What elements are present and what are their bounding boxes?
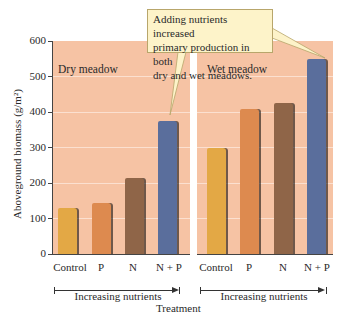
callout-line: primary production in both [153, 40, 267, 68]
arrow-end-tick [179, 287, 180, 294]
increasing-nutrients-wet: Increasing nutrients [204, 290, 324, 302]
callout-line: dry and wet meadows. [153, 68, 267, 82]
arrow-end-tick [326, 287, 327, 294]
x-axis-title: Treatment [156, 302, 201, 314]
annotation-callout: Adding nutrients increased primary produ… [147, 9, 273, 53]
x-label-wet-np: N + P [297, 261, 337, 273]
x-label-dry-np: N + P [149, 261, 189, 273]
callout-line: Adding nutrients increased [153, 12, 267, 40]
increasing-nutrients-dry: Increasing nutrients [58, 290, 178, 302]
x-label-dry-n: N [113, 261, 153, 273]
